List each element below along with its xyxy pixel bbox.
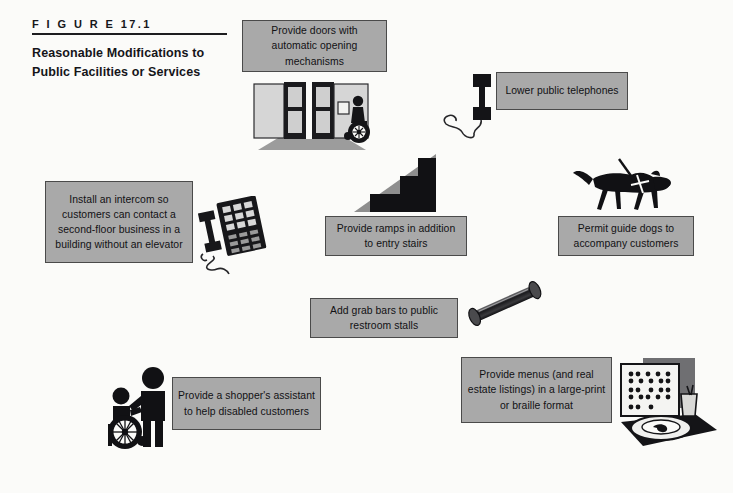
figure-page: F I G U R E 17.1 Reasonable Modification… bbox=[0, 0, 733, 493]
caption-box-grab-bars: Add grab bars to public restroom stalls bbox=[310, 298, 458, 338]
wheelchair-assistant-illustration bbox=[101, 362, 183, 450]
ramp-stairs-illustration bbox=[352, 152, 438, 214]
caption-box-ramps: Provide ramps in addition to entry stair… bbox=[325, 216, 467, 256]
grab-bar-illustration bbox=[462, 281, 548, 327]
desk-telephone-illustration bbox=[197, 196, 275, 276]
caption-box-shoppers-assistant: Provide a shopper's assistant to help di… bbox=[172, 377, 321, 430]
guide-dog-illustration bbox=[567, 157, 673, 219]
caption-box-guide-dogs: Permit guide dogs to accompany customers bbox=[558, 216, 694, 256]
figure-title: Reasonable Modifications to Public Facil… bbox=[32, 44, 232, 83]
caption-text-lower-telephones: Lower public telephones bbox=[502, 83, 622, 98]
caption-text-guide-dogs: Permit guide dogs to accompany customers bbox=[564, 221, 688, 251]
caption-box-lower-telephones: Lower public telephones bbox=[496, 72, 628, 110]
braille-menu-illustration bbox=[617, 352, 719, 448]
automatic-doors-illustration bbox=[248, 78, 376, 150]
caption-text-braille-menus: Provide menus (and real estate listings)… bbox=[467, 367, 606, 412]
caption-box-automatic-doors: Provide doors with automatic opening mec… bbox=[242, 20, 387, 72]
caption-box-intercom: Install an intercom so customers can con… bbox=[45, 181, 193, 263]
caption-text-ramps: Provide ramps in addition to entry stair… bbox=[331, 221, 461, 251]
caption-text-grab-bars: Add grab bars to public restroom stalls bbox=[316, 303, 452, 333]
caption-text-intercom: Install an intercom so customers can con… bbox=[51, 192, 187, 252]
caption-box-braille-menus: Provide menus (and real estate listings)… bbox=[461, 357, 612, 423]
caption-text-automatic-doors: Provide doors with automatic opening mec… bbox=[248, 23, 381, 68]
figure-header: F I G U R E 17.1 Reasonable Modification… bbox=[32, 18, 232, 83]
figure-rule-divider bbox=[32, 33, 227, 35]
figure-number: F I G U R E 17.1 bbox=[32, 18, 232, 30]
caption-text-shoppers-assistant: Provide a shopper's assistant to help di… bbox=[178, 388, 315, 418]
